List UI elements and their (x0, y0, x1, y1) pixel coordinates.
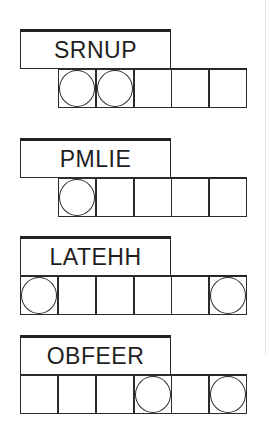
answer-cell[interactable] (209, 69, 247, 108)
answer-cell[interactable] (96, 178, 134, 217)
answer-cell-circled[interactable] (134, 375, 172, 414)
answer-cell[interactable] (20, 375, 58, 414)
answer-cell[interactable] (134, 276, 172, 315)
answer-cell[interactable] (209, 178, 247, 217)
answer-cell[interactable] (96, 375, 134, 414)
answer-cell-circled[interactable] (96, 69, 134, 108)
answer-cell[interactable] (134, 178, 172, 217)
scrambled-word: SRNUP (20, 29, 171, 69)
answer-cell[interactable] (171, 276, 209, 315)
answer-cell[interactable] (58, 276, 96, 315)
scrambled-word: OBFEER (20, 335, 171, 375)
answer-cell[interactable] (171, 178, 209, 217)
answer-cell-circled[interactable] (20, 276, 58, 315)
scrambled-word: LATEHH (20, 236, 171, 276)
page-edge-divider (265, 0, 266, 355)
answer-cell[interactable] (171, 375, 209, 414)
answer-cell[interactable] (171, 69, 209, 108)
answer-cell-circled[interactable] (58, 69, 96, 108)
scrambled-word: PMLIE (20, 138, 171, 178)
answer-cell-circled[interactable] (58, 178, 96, 217)
answer-cell[interactable] (58, 375, 96, 414)
answer-cell[interactable] (96, 276, 134, 315)
answer-cell[interactable] (134, 69, 172, 108)
answer-cell-circled[interactable] (209, 375, 247, 414)
answer-cell-circled[interactable] (209, 276, 247, 315)
